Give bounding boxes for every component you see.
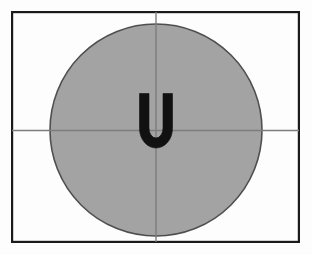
target-registration-figure (0, 0, 312, 255)
figure-canvas (0, 0, 312, 255)
